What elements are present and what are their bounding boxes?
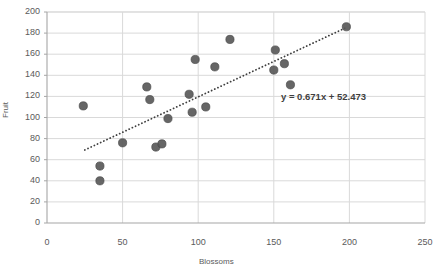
data-points: [79, 23, 350, 185]
trendline: [85, 27, 347, 149]
trendline-equation-label: y = 0.671x + 52.473: [281, 92, 366, 102]
plot-area: [0, 0, 439, 272]
data-point: [164, 114, 172, 122]
x-axis-tick-label: 250: [410, 238, 439, 247]
data-point: [185, 90, 193, 98]
y-axis-tick-label: 0: [16, 218, 40, 227]
data-point: [271, 46, 279, 54]
x-axis-tick-label: 50: [108, 238, 138, 247]
data-point: [96, 177, 104, 185]
data-point: [158, 140, 166, 148]
x-axis-tick-label: 150: [259, 238, 289, 247]
data-point: [188, 108, 196, 116]
y-axis-tick-label: 80: [16, 134, 40, 143]
y-axis-tick-label: 160: [16, 49, 40, 58]
data-point: [202, 103, 210, 111]
data-point: [143, 83, 151, 91]
data-point: [286, 81, 294, 89]
data-point: [119, 139, 127, 147]
data-point: [146, 95, 154, 103]
scatter-chart: 020406080100120140160180200 050100150200…: [0, 0, 439, 272]
data-point: [191, 55, 199, 63]
data-point: [342, 23, 350, 31]
y-axis-tick-label: 120: [16, 91, 40, 100]
data-point: [280, 60, 288, 68]
y-axis-tick-label: 200: [16, 7, 40, 16]
data-point: [211, 63, 219, 71]
data-point: [79, 102, 87, 110]
x-axis-tick-label: 0: [32, 238, 62, 247]
trendline-path: [85, 27, 347, 149]
y-axis-tick-label: 100: [16, 113, 40, 122]
y-axis-tick-label: 40: [16, 176, 40, 185]
gridlines: [47, 12, 425, 223]
y-axis-tick-label: 180: [16, 28, 40, 37]
y-axis-tick-label: 60: [16, 155, 40, 164]
y-axis-tick-label: 140: [16, 70, 40, 79]
x-axis-title: Blossoms: [199, 258, 234, 266]
data-point: [96, 162, 104, 170]
y-axis-tick-label: 20: [16, 197, 40, 206]
data-point: [226, 35, 234, 43]
x-axis-tick-label: 200: [334, 238, 364, 247]
y-axis-title: Fruit: [2, 102, 10, 118]
data-point: [270, 66, 278, 74]
x-axis-tick-label: 100: [183, 238, 213, 247]
